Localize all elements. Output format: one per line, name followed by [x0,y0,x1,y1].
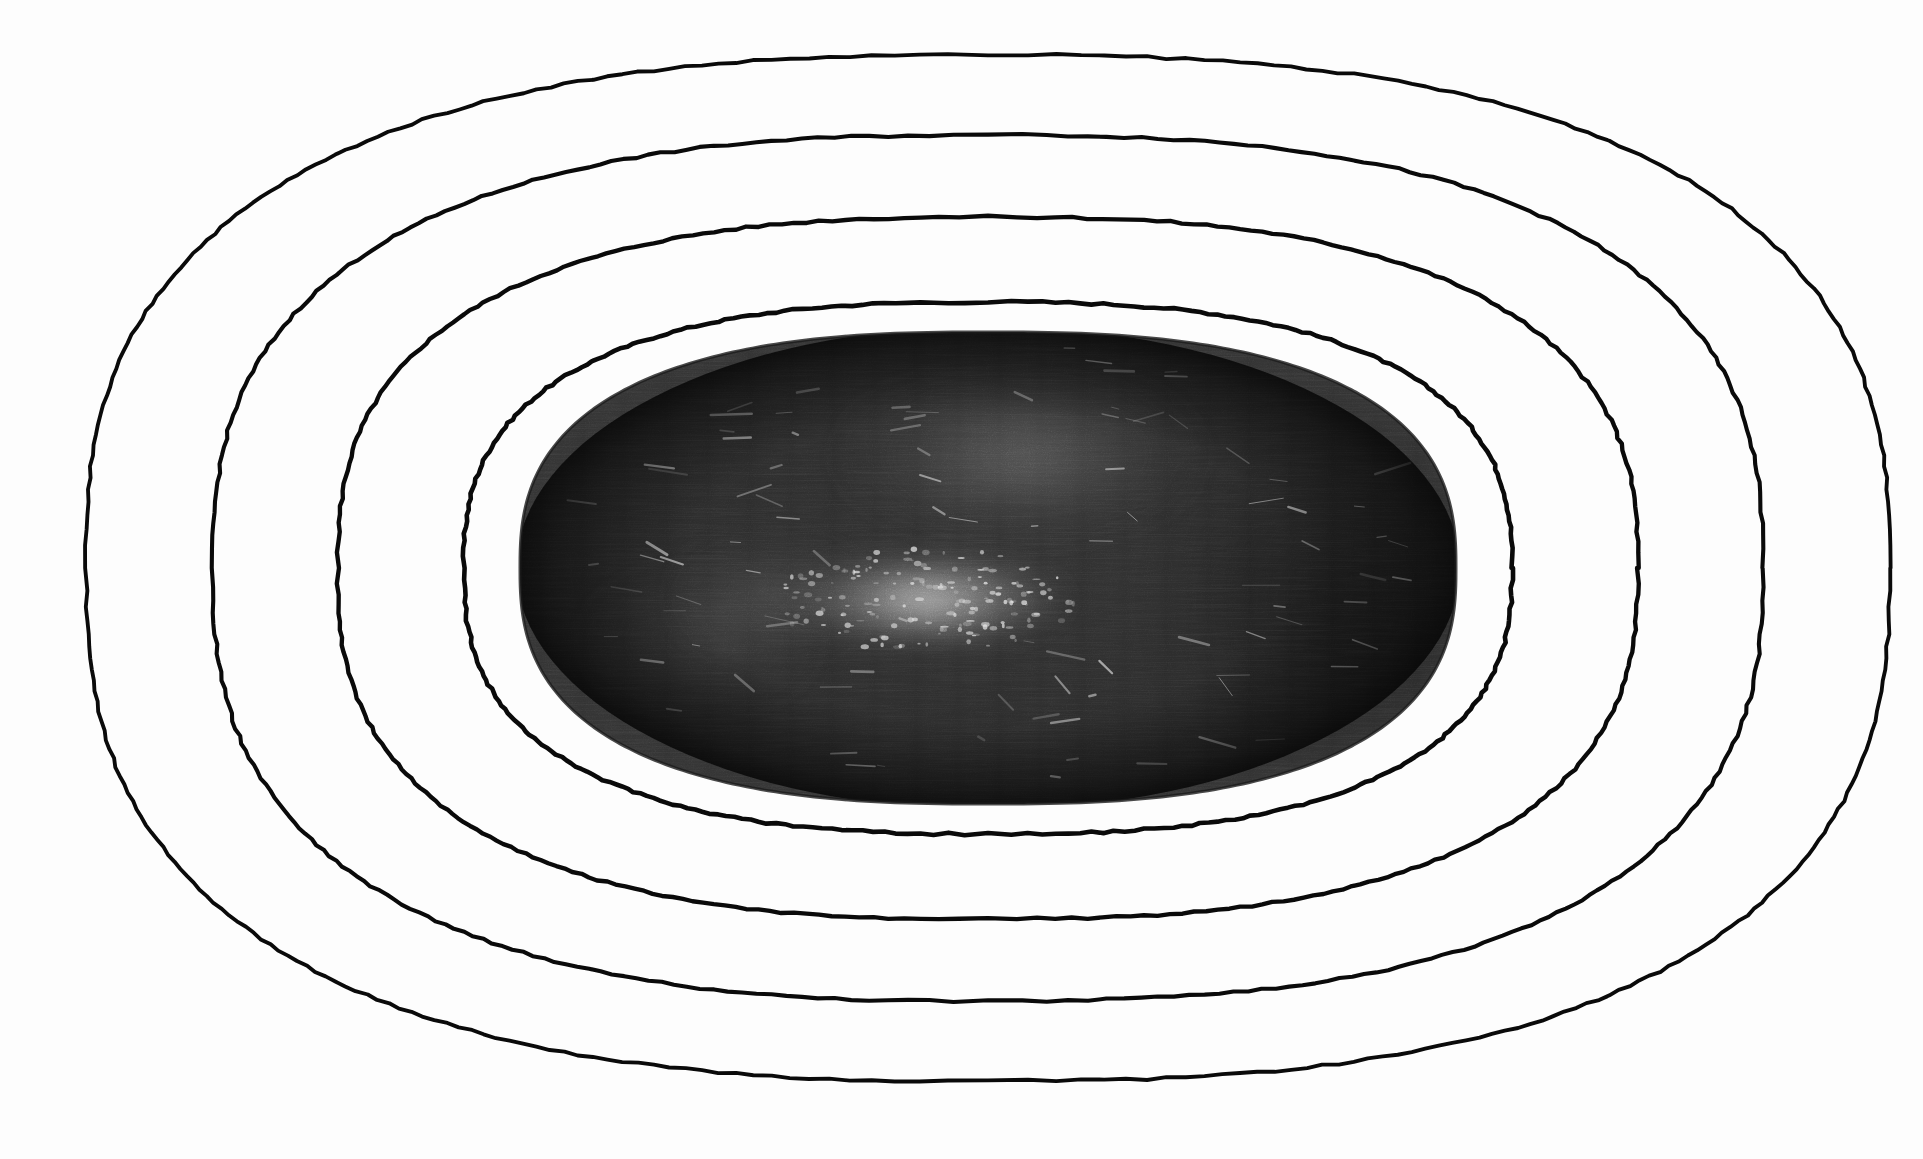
isophote-figure: A scanned photographic plate showing an … [0,0,1923,1159]
isophote-plot-canvas [0,0,1923,1159]
plate-vignette [516,326,1460,810]
